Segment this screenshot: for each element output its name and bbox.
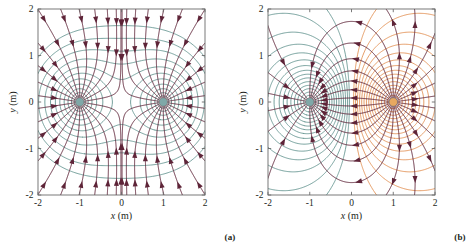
xtick-label: 2 <box>433 198 438 208</box>
xtick-label: 0 <box>119 198 124 208</box>
ytick-label: -1 <box>26 144 34 154</box>
xtick-label: 2 <box>203 198 208 208</box>
ytick-label: 1 <box>259 51 264 61</box>
xtick-label: 1 <box>391 198 396 208</box>
positive-charge-right <box>389 98 397 106</box>
negative-charge-right <box>159 98 167 106</box>
negative-charge-left <box>76 98 84 106</box>
xtick-label: -1 <box>306 198 314 208</box>
panel-a: -2-1012210-1-2x (m)y (m) <box>0 0 230 252</box>
panel-b: -2-1012210-1-2x (m)y (m) <box>230 0 460 252</box>
x-axis-label: x (m) <box>110 210 132 222</box>
xtick-label: -2 <box>34 198 42 208</box>
xtick-label: -2 <box>264 198 272 208</box>
ytick-label: 2 <box>259 4 264 14</box>
xtick-label: -1 <box>76 198 84 208</box>
negative-charge-left <box>306 98 314 106</box>
xtick-label: 1 <box>161 198 166 208</box>
caption-panel-b: (b) <box>230 232 470 242</box>
ytick-label: 1 <box>29 51 34 61</box>
x-axis-label: x (m) <box>340 210 362 222</box>
ytick-label: -1 <box>256 144 264 154</box>
plot-b: -2-1012210-1-2x (m)y (m) <box>230 0 460 230</box>
ytick-label: 2 <box>29 4 34 14</box>
ytick-label: 0 <box>259 97 264 107</box>
ytick-label: 0 <box>29 97 34 107</box>
ytick-label: -2 <box>26 190 34 200</box>
plot-a: -2-1012210-1-2x (m)y (m) <box>0 0 230 230</box>
y-axis-label: y (m) <box>237 91 249 113</box>
xtick-label: 0 <box>349 198 354 208</box>
ytick-label: -2 <box>256 190 264 200</box>
y-axis-label: y (m) <box>7 91 19 113</box>
